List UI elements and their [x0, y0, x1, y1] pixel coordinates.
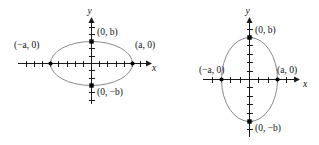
- top-vertex-dot: [247, 35, 251, 39]
- label-top-vertex-vertical: (0, b): [255, 25, 276, 36]
- left-covertex-dot: [219, 77, 223, 81]
- bottom-vertex-dot: [247, 119, 251, 123]
- right-covertex-dot: [275, 77, 279, 81]
- label-left-covertex-vertical: (−a, 0): [199, 65, 224, 76]
- vertical-panel-x-axis-arrow: [294, 77, 300, 83]
- vertical-panel-y-axis-label: y: [245, 6, 251, 16]
- panel-vertical-ellipse: (−a, 0) (a, 0) (0, b) (0, −b) x y: [0, 0, 319, 145]
- vertical-panel-x-axis-label: x: [302, 79, 308, 89]
- vertical-panel-y-axis-arrow: [247, 17, 253, 23]
- label-bottom-vertex-vertical: (0, −b): [255, 123, 281, 134]
- label-right-covertex-vertical: (a, 0): [277, 65, 297, 76]
- vertical-axes-group: [203, 17, 300, 137]
- ellipse-figure: (−a, 0) (a, 0) (0, b) (0, −b) x y: [0, 0, 319, 145]
